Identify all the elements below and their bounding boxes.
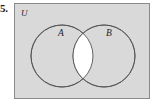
set-b-label: B <box>106 28 112 38</box>
venn-diagram-figure: 5. U A B <box>0 0 158 103</box>
universal-set-label: U <box>21 8 28 18</box>
venn-diagram-canvas: U A B <box>0 0 158 103</box>
set-a-label: A <box>57 28 64 38</box>
